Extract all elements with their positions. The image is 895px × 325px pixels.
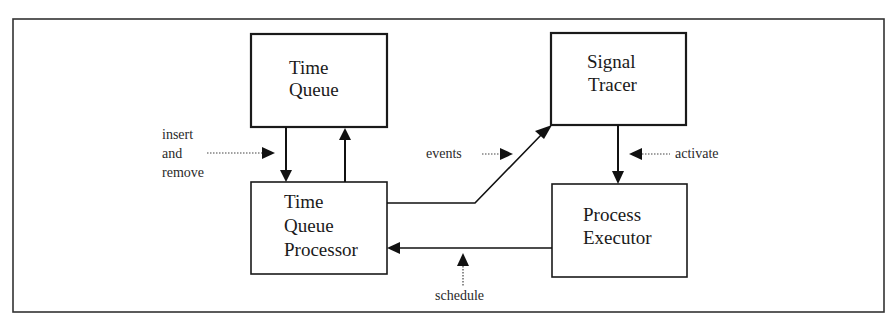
annotation-insert-remove: insert and remove: [162, 127, 275, 180]
node-process-executor-line-1: Process: [583, 204, 641, 225]
node-process-executor: Process Executor: [552, 184, 687, 277]
annotation-insert-line-1: insert: [162, 127, 193, 142]
dotted-arrow-right-icon: [262, 147, 275, 159]
node-process-executor-line-2: Executor: [583, 227, 652, 248]
edge-executor-to-processor: [387, 242, 552, 254]
annotation-activate-label: activate: [675, 146, 719, 161]
arrowhead-diagonal-icon: [535, 125, 552, 139]
dotted-arrow-right-icon: [500, 148, 513, 160]
annotation-insert-line-2: and: [162, 146, 182, 161]
edge-signal-tracer-to-executor: [612, 125, 624, 184]
node-tqp-line-3: Processor: [284, 239, 359, 260]
annotation-insert-line-3: remove: [162, 165, 204, 180]
edge-time-queue-to-processor: [280, 127, 292, 182]
arrowhead-down-icon: [612, 171, 624, 184]
edge-processor-to-time-queue: [339, 128, 351, 182]
annotation-schedule: schedule: [435, 253, 484, 303]
dotted-arrow-up-icon: [457, 253, 469, 266]
annotation-events-label: events: [426, 146, 462, 161]
edge-processor-to-signal-tracer: [387, 125, 552, 203]
diagram-frame: [13, 19, 884, 312]
node-signal-tracer-line-2: Tracer: [588, 74, 638, 95]
node-time-queue-line-1: Time: [289, 57, 328, 78]
arrowhead-down-icon: [280, 170, 292, 182]
node-time-queue-processor: Time Queue Processor: [251, 182, 387, 274]
node-time-queue-line-2: Queue: [289, 79, 339, 100]
arrowhead-left-icon: [387, 242, 400, 254]
node-signal-tracer: Signal Tracer: [551, 33, 686, 125]
node-tqp-line-2: Queue: [284, 215, 334, 236]
dotted-arrow-left-icon: [629, 148, 642, 160]
annotation-activate: activate: [629, 146, 719, 161]
annotation-events: events: [426, 146, 513, 161]
annotation-schedule-label: schedule: [435, 288, 484, 303]
node-signal-tracer-line-1: Signal: [587, 51, 636, 72]
node-tqp-line-1: Time: [284, 191, 323, 212]
arrowhead-up-icon: [339, 128, 351, 140]
diagram-canvas: Time Queue Time Queue Processor Signal T…: [0, 0, 895, 325]
node-time-queue: Time Queue: [251, 34, 387, 127]
